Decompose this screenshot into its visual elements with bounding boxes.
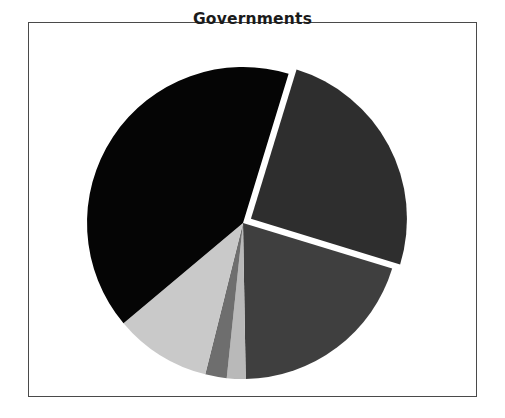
chart-title: Governments (0, 10, 505, 28)
pie-chart-figure: Governments (0, 0, 505, 418)
pie-slice-group (87, 67, 407, 379)
pie-chart-canvas (0, 0, 505, 418)
